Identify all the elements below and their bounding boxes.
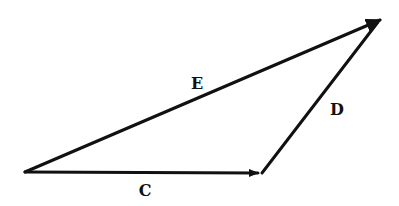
vector-diagram: C D E	[0, 0, 399, 206]
vector-e-label: E	[191, 74, 203, 93]
vector-e-arrow	[25, 20, 380, 172]
vector-c-arrow	[25, 172, 258, 173]
vector-c-label: C	[139, 181, 152, 200]
vector-d-label: D	[330, 100, 344, 119]
